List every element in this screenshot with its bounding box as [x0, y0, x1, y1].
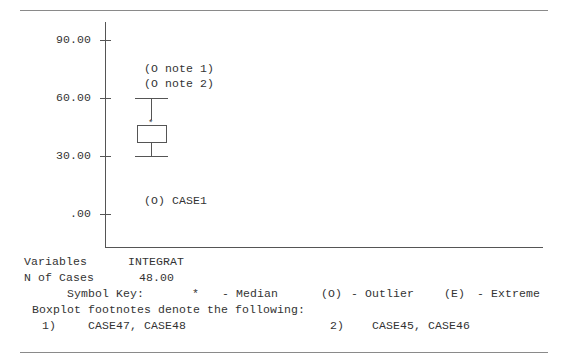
median-marker: *	[148, 120, 153, 129]
outlier-text: - Outlier	[351, 287, 414, 301]
median-text: - Median	[222, 287, 278, 301]
footnote-1-text: CASE47, CASE48	[88, 319, 186, 333]
n-cases-value: 48.00	[139, 271, 174, 285]
outlier-note-1: (O note 1)	[144, 62, 214, 76]
footnotes-heading: Boxplot footnotes denote the following:	[32, 303, 305, 317]
footnote-2-num: 2)	[330, 319, 344, 333]
outlier-case1: (O) CASE1	[144, 194, 207, 208]
outlier-symbol: (O)	[321, 287, 342, 301]
extreme-text: - Extreme	[477, 287, 540, 301]
footnote-1-num: 1)	[42, 319, 56, 333]
outlier-note-2: (O note 2)	[144, 77, 214, 91]
median-symbol: *	[192, 287, 199, 301]
footnote-2-text: CASE45, CASE46	[372, 319, 470, 333]
variables-label: Variables	[24, 255, 87, 269]
variables-value: INTEGRAT	[128, 255, 184, 269]
n-cases-label: N of Cases	[24, 271, 94, 285]
extreme-symbol: (E)	[444, 287, 465, 301]
bottom-rule	[20, 352, 548, 353]
symbol-key-label: Symbol Key:	[67, 287, 144, 301]
